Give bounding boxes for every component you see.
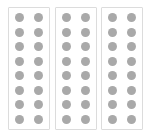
well-circle[interactable]: [15, 28, 24, 37]
well-row: [62, 42, 90, 51]
well-circle[interactable]: [108, 71, 117, 80]
well-row: [15, 13, 43, 22]
well-circle[interactable]: [15, 100, 24, 109]
well-circle[interactable]: [15, 86, 24, 95]
well-circle[interactable]: [62, 71, 71, 80]
well-circle[interactable]: [127, 28, 136, 37]
well-row: [62, 115, 90, 124]
well-circle[interactable]: [127, 115, 136, 124]
well-circle[interactable]: [15, 115, 24, 124]
well-circle[interactable]: [15, 42, 24, 51]
well-row: [62, 13, 90, 22]
well-row: [108, 86, 136, 95]
figure-canvas: 123: [0, 0, 148, 139]
well-row: [15, 86, 43, 95]
well-grid: [9, 8, 49, 129]
well-circle[interactable]: [81, 115, 90, 124]
well-circle[interactable]: [15, 71, 24, 80]
well-circle[interactable]: [127, 86, 136, 95]
well-circle[interactable]: [81, 13, 90, 22]
well-circle[interactable]: [62, 13, 71, 22]
well-circle[interactable]: [34, 86, 43, 95]
well-circle[interactable]: [127, 71, 136, 80]
well-circle[interactable]: [34, 115, 43, 124]
well-circle[interactable]: [15, 57, 24, 66]
well-circle[interactable]: [108, 13, 117, 22]
well-row: [108, 42, 136, 51]
well-row: [15, 71, 43, 80]
well-row: [108, 115, 136, 124]
well-circle[interactable]: [34, 28, 43, 37]
well-circle[interactable]: [108, 115, 117, 124]
well-circle[interactable]: [62, 86, 71, 95]
well-circle[interactable]: [34, 57, 43, 66]
well-circle[interactable]: [81, 100, 90, 109]
well-circle[interactable]: [62, 115, 71, 124]
well-row: [62, 57, 90, 66]
well-circle[interactable]: [127, 42, 136, 51]
well-circle[interactable]: [108, 28, 117, 37]
well-circle[interactable]: [34, 100, 43, 109]
well-circle[interactable]: [62, 28, 71, 37]
well-row: [62, 28, 90, 37]
well-circle[interactable]: [34, 42, 43, 51]
well-row: [108, 100, 136, 109]
well-circle[interactable]: [108, 86, 117, 95]
well-circle[interactable]: [108, 100, 117, 109]
well-circle[interactable]: [62, 57, 71, 66]
well-strip[interactable]: 3: [101, 7, 143, 130]
well-circle[interactable]: [127, 13, 136, 22]
well-row: [15, 42, 43, 51]
well-circle[interactable]: [81, 57, 90, 66]
well-circle[interactable]: [34, 71, 43, 80]
well-circle[interactable]: [81, 71, 90, 80]
well-grid: [102, 8, 142, 129]
well-circle[interactable]: [62, 42, 71, 51]
well-strip[interactable]: 1: [8, 7, 50, 130]
well-circle[interactable]: [81, 28, 90, 37]
well-row: [15, 100, 43, 109]
well-circle[interactable]: [81, 86, 90, 95]
well-row: [108, 57, 136, 66]
well-row: [15, 28, 43, 37]
well-row: [62, 86, 90, 95]
well-row: [108, 71, 136, 80]
well-row: [108, 13, 136, 22]
well-row: [62, 100, 90, 109]
well-row: [108, 28, 136, 37]
well-strip[interactable]: 2: [55, 7, 97, 130]
well-circle[interactable]: [15, 13, 24, 22]
well-row: [15, 115, 43, 124]
well-circle[interactable]: [127, 100, 136, 109]
well-circle[interactable]: [108, 42, 117, 51]
well-circle[interactable]: [34, 13, 43, 22]
well-circle[interactable]: [62, 100, 71, 109]
well-circle[interactable]: [81, 42, 90, 51]
well-grid: [56, 8, 96, 129]
well-row: [62, 71, 90, 80]
well-circle[interactable]: [108, 57, 117, 66]
well-circle[interactable]: [127, 57, 136, 66]
well-row: [15, 57, 43, 66]
